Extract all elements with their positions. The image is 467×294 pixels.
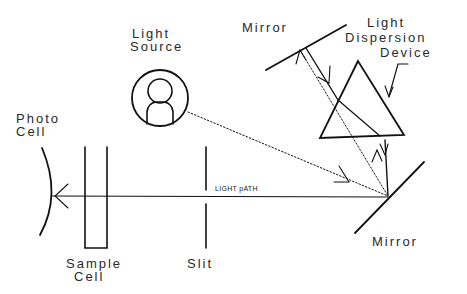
dispersion-label-3: Device	[380, 47, 432, 59]
sample-cell-label-2: Cell	[74, 271, 104, 283]
dispersion-label-1: Light	[367, 17, 405, 29]
light-path-line	[52, 196, 388, 197]
exit-arrow-down-icon	[380, 144, 388, 155]
bottom-mirror-label: Mirror	[372, 236, 418, 248]
sample-cell	[85, 147, 107, 248]
source-beam	[188, 112, 388, 196]
slit-label: Slit	[187, 258, 213, 270]
beam-arrow-down-icon	[318, 66, 330, 83]
light-source-icon	[132, 70, 188, 126]
light-source-label-2: Source	[130, 41, 183, 53]
dispersion-label-2: Dispersion	[345, 32, 426, 44]
photo-cell	[40, 148, 52, 235]
dispersion-prism	[320, 61, 404, 138]
photo-cell-label-2: Cell	[16, 126, 46, 138]
top-mirror-label: Mirror	[242, 22, 288, 34]
light-path-label: LIGHT pATH	[215, 185, 258, 192]
exit-arrow-up-icon	[372, 150, 382, 162]
